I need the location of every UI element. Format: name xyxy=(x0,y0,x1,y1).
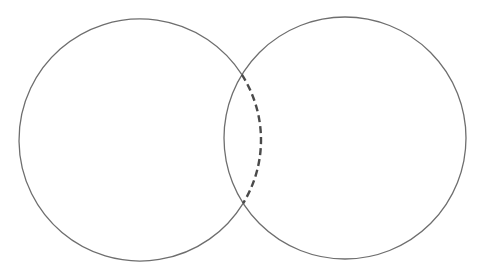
left-circle xyxy=(19,19,243,261)
intersection-dashed-arc xyxy=(242,75,261,204)
venn-diagram xyxy=(0,0,486,279)
